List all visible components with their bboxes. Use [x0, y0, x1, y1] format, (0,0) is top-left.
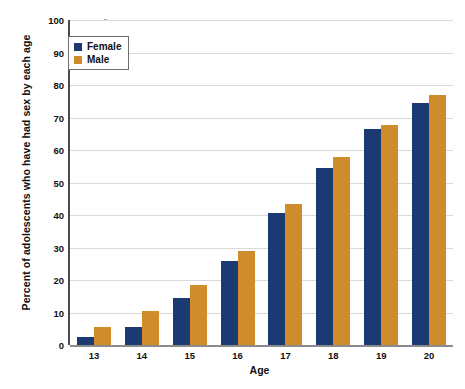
legend: Female Male — [68, 36, 129, 70]
bar-group — [214, 20, 262, 345]
bar-female-17 — [268, 213, 285, 345]
y-axis-tick-label: 70 — [38, 112, 64, 123]
legend-label-female: Female — [87, 41, 121, 52]
bar-female-20 — [412, 103, 429, 345]
legend-swatch-male-icon — [74, 56, 82, 64]
bar-group — [309, 20, 357, 345]
bar-female-14 — [125, 327, 142, 345]
y-axis-tick-label: 20 — [38, 275, 64, 286]
bar-group — [357, 20, 405, 345]
bar-male-17 — [285, 204, 302, 345]
bar-female-13 — [77, 337, 94, 345]
y-axis-tick-label: 40 — [38, 210, 64, 221]
x-axis-tick-label: 14 — [118, 350, 166, 361]
gridline — [70, 345, 453, 347]
y-axis-tick-label: 30 — [38, 242, 64, 253]
x-axis-ticks: 1314151617181920 — [70, 350, 453, 361]
x-axis-tick-label: 19 — [357, 350, 405, 361]
bar-male-16 — [238, 251, 255, 345]
bar-male-14 — [142, 311, 159, 345]
legend-item-female: Female — [74, 40, 121, 53]
x-axis-tick-label: 17 — [262, 350, 310, 361]
bar-female-18 — [316, 168, 333, 345]
y-axis-tick-label: 50 — [38, 177, 64, 188]
legend-label-male: Male — [87, 54, 109, 65]
y-axis-tick-label: 10 — [38, 307, 64, 318]
legend-item-male: Male — [74, 53, 121, 66]
y-axis-tick-label: 100 — [38, 15, 64, 26]
x-axis-tick-label: 20 — [405, 350, 453, 361]
y-axis-tick-label: 80 — [38, 80, 64, 91]
legend-swatch-female-icon — [74, 43, 82, 51]
x-axis-tick-label: 16 — [214, 350, 262, 361]
bar-male-18 — [333, 157, 350, 346]
x-axis-title: Age — [68, 364, 451, 376]
y-axis-title: Percent of adolescents who have had sex … — [20, 0, 38, 345]
bar-female-15 — [173, 298, 190, 345]
bar-male-15 — [190, 285, 207, 345]
bar-group — [262, 20, 310, 345]
y-axis-tick-label: 90 — [38, 47, 64, 58]
bar-group — [166, 20, 214, 345]
bar-female-16 — [221, 261, 238, 346]
bar-male-13 — [94, 327, 111, 345]
y-axis-tick-label: 60 — [38, 145, 64, 156]
bar-male-20 — [429, 95, 446, 345]
y-axis-ticks: 1009080706050403020100 — [38, 0, 64, 389]
x-axis-tick-label: 18 — [309, 350, 357, 361]
bar-male-19 — [381, 125, 398, 345]
x-axis-tick-label: 15 — [166, 350, 214, 361]
y-axis-tick-label: 0 — [38, 340, 64, 351]
bar-female-19 — [364, 129, 381, 345]
bar-chart: Percent of adolescents who have had sex … — [0, 0, 465, 389]
x-axis-tick-label: 13 — [70, 350, 118, 361]
bar-group — [405, 20, 453, 345]
